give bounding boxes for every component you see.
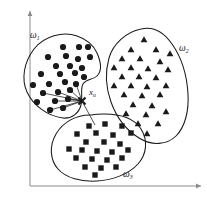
- circle-marker: [57, 71, 63, 77]
- square-marker: [86, 123, 91, 128]
- square-marker: [110, 132, 115, 137]
- circle-marker: [38, 71, 44, 77]
- circle-marker: [67, 63, 73, 69]
- triangle-marker: [167, 50, 174, 56]
- label-base: ω: [179, 43, 186, 53]
- circle-marker: [60, 105, 66, 111]
- circle-marker: [79, 65, 85, 71]
- triangle-marker: [141, 36, 148, 42]
- triangle-marker: [139, 92, 146, 98]
- label-subscript: u: [93, 92, 96, 98]
- square-marker: [113, 164, 118, 169]
- circle-marker: [45, 54, 51, 60]
- cluster-2-points: [111, 36, 174, 136]
- triangle-marker: [119, 73, 126, 79]
- square-marker: [94, 148, 99, 153]
- label-subscript: 1: [37, 35, 40, 41]
- circle-marker: [60, 44, 66, 50]
- square-marker: [73, 155, 78, 160]
- triangle-marker: [145, 65, 152, 71]
- triangle-marker: [163, 82, 170, 88]
- circle-marker: [76, 44, 82, 50]
- square-marker: [82, 164, 87, 169]
- circle-marker: [30, 82, 36, 88]
- circle-marker: [75, 56, 81, 62]
- circle-marker: [46, 81, 52, 87]
- triangle-marker: [128, 82, 135, 88]
- square-marker: [79, 147, 84, 152]
- circle-marker: [47, 107, 53, 113]
- triangle-marker: [123, 110, 130, 116]
- square-marker: [66, 146, 71, 151]
- square-marker: [109, 149, 114, 154]
- square-marker: [89, 156, 94, 161]
- triangle-marker: [144, 130, 151, 136]
- triangle-marker: [149, 102, 156, 108]
- circle-marker: [53, 63, 59, 69]
- square-marker: [104, 157, 109, 162]
- triangle-marker: [111, 82, 118, 88]
- circle-marker: [73, 81, 79, 87]
- circle-marker: [67, 87, 73, 93]
- triangle-marker: [155, 120, 162, 126]
- triangle-marker: [121, 91, 128, 97]
- square-marker: [93, 130, 98, 135]
- triangle-marker: [143, 111, 150, 117]
- triangle-marker: [136, 73, 143, 79]
- query-point-label: xu: [89, 88, 96, 97]
- triangle-marker: [163, 108, 170, 114]
- square-marker: [98, 165, 103, 170]
- triangle-marker: [165, 66, 172, 72]
- triangle-marker: [119, 55, 126, 61]
- label-subscript: 2: [186, 48, 189, 54]
- square-marker: [128, 130, 133, 135]
- circle-marker: [72, 70, 78, 76]
- square-marker: [74, 131, 79, 136]
- neighbor-link-cluster3: [82, 101, 95, 125]
- cluster-2-label: ω2: [179, 44, 189, 54]
- cluster-diagram-figure: ω1 ω2 ω3 xu: [0, 0, 207, 200]
- circle-marker: [34, 99, 40, 105]
- cluster-3-label: ω3: [123, 170, 133, 180]
- square-marker: [119, 123, 124, 128]
- circle-marker: [55, 89, 61, 95]
- triangle-marker: [128, 46, 135, 52]
- circle-marker: [81, 74, 87, 80]
- circle-marker: [65, 96, 71, 102]
- label-subscript: 3: [130, 174, 133, 180]
- triangle-marker: [153, 46, 160, 52]
- label-base: ω: [123, 169, 130, 179]
- square-marker: [92, 172, 97, 177]
- triangle-marker: [144, 83, 151, 89]
- triangle-marker: [111, 64, 118, 70]
- square-marker: [83, 139, 88, 144]
- circle-marker: [63, 53, 69, 59]
- square-marker: [102, 121, 107, 126]
- circle-marker: [40, 90, 46, 96]
- square-marker: [101, 139, 106, 144]
- circle-marker: [52, 98, 58, 104]
- triangle-marker: [157, 91, 164, 97]
- circle-marker: [62, 79, 68, 85]
- square-marker: [117, 141, 122, 146]
- triangle-marker: [153, 74, 160, 80]
- triangle-marker: [128, 64, 135, 70]
- square-marker: [119, 155, 124, 160]
- cluster-1-label: ω1: [30, 31, 40, 41]
- triangle-marker: [130, 101, 137, 107]
- triangle-marker: [137, 55, 144, 61]
- circle-marker: [85, 44, 91, 50]
- triangle-marker: [157, 58, 164, 64]
- label-base: ω: [30, 30, 37, 40]
- circle-marker: [87, 54, 93, 60]
- square-marker: [125, 147, 130, 152]
